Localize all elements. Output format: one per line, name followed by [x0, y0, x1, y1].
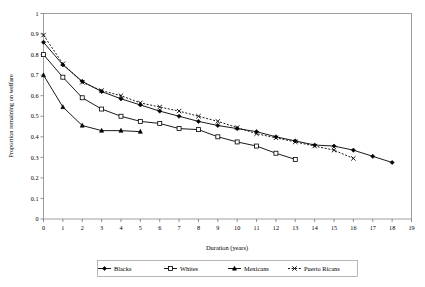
x-tick-label: 15: [331, 224, 337, 231]
data-point-open-square: [100, 107, 104, 111]
x-tick-label: 0: [42, 224, 45, 231]
y-tick-label: 1: [35, 10, 38, 17]
welfare-duration-line-chart: 00.10.20.30.40.50.60.70.80.91 0123456789…: [0, 0, 425, 287]
data-point-x-star: [216, 119, 220, 123]
x-tick-label: 7: [178, 224, 181, 231]
data-point-open-square: [61, 75, 65, 79]
data-point-filled-diamond: [177, 114, 181, 118]
legend-label: Whites: [180, 265, 199, 272]
data-point-open-square: [235, 140, 239, 144]
data-point-filled-diamond: [332, 144, 336, 148]
x-tick-label: 6: [158, 224, 161, 231]
chart-container: 00.10.20.30.40.50.60.70.80.91 0123456789…: [0, 0, 425, 287]
data-point-open-square: [138, 119, 142, 123]
y-tick-label: 0.2: [31, 174, 39, 181]
x-axis-ticks: 012345678910111213141516171819: [42, 219, 415, 231]
x-tick-label: 12: [273, 224, 279, 231]
series-blacks: [41, 40, 394, 164]
data-point-filled-diamond: [390, 160, 394, 164]
data-point-open-square: [177, 127, 181, 131]
y-tick-label: 0.1: [31, 195, 39, 202]
y-tick-label: 0.9: [31, 30, 39, 37]
data-point-filled-diamond: [371, 154, 375, 158]
x-tick-label: 13: [292, 224, 298, 231]
x-tick-label: 4: [119, 224, 122, 231]
x-axis-title: Duration (years): [206, 244, 248, 252]
plot-frame: [44, 14, 412, 220]
data-point-filled-diamond: [351, 148, 355, 152]
legend-label: Puerto Ricans: [304, 265, 340, 272]
data-point-open-square: [196, 128, 200, 132]
data-point-open-square: [293, 157, 297, 161]
series-layer: [41, 33, 394, 165]
data-point-x-star: [177, 109, 181, 113]
data-point-filled-diamond: [158, 109, 162, 113]
y-tick-label: 0.5: [31, 112, 39, 119]
y-tick-label: 0.7: [31, 71, 39, 78]
legend-label: Mexicans: [244, 265, 269, 272]
x-tick-label: 19: [408, 224, 414, 231]
series-whites: [42, 53, 298, 162]
x-tick-label: 14: [312, 224, 318, 231]
x-tick-label: 11: [254, 224, 260, 231]
legend-label: Blacks: [114, 265, 132, 272]
x-tick-label: 3: [100, 224, 103, 231]
x-tick-label: 10: [234, 224, 240, 231]
data-point-open-square: [42, 53, 46, 57]
y-tick-label: 0.3: [31, 154, 39, 161]
data-point-open-square: [119, 114, 123, 118]
x-tick-label: 16: [350, 224, 356, 231]
data-point-filled-diamond: [216, 123, 220, 127]
data-point-open-square: [158, 121, 162, 125]
data-point-filled-diamond: [196, 119, 200, 123]
data-point-open-square: [80, 96, 84, 100]
y-tick-label: 0: [35, 215, 38, 222]
x-tick-label: 2: [81, 224, 84, 231]
y-tick-label: 0.8: [31, 51, 39, 58]
data-point-open-square: [216, 135, 220, 139]
data-point-open-square: [255, 144, 259, 148]
legend: BlacksWhitesMexicansPuerto Ricans: [98, 261, 358, 277]
y-tick-label: 0.4: [31, 133, 39, 140]
x-tick-label: 9: [216, 224, 219, 231]
x-tick-label: 1: [61, 224, 64, 231]
x-tick-label: 5: [139, 224, 142, 231]
x-tick-label: 8: [197, 224, 200, 231]
y-axis-title: Proportion remaining on welfare: [7, 74, 14, 158]
data-point-x-star: [351, 156, 355, 160]
y-axis-ticks: 00.10.20.30.40.50.60.70.80.91: [31, 10, 44, 223]
data-point-open-square: [274, 151, 278, 155]
series-polyline: [44, 35, 354, 158]
series-polyline: [44, 42, 393, 162]
x-tick-label: 18: [389, 224, 395, 231]
y-tick-label: 0.6: [31, 92, 39, 99]
x-tick-label: 17: [370, 224, 376, 231]
data-point-open-square: [169, 267, 173, 271]
series-puerto-ricans: [41, 33, 355, 161]
